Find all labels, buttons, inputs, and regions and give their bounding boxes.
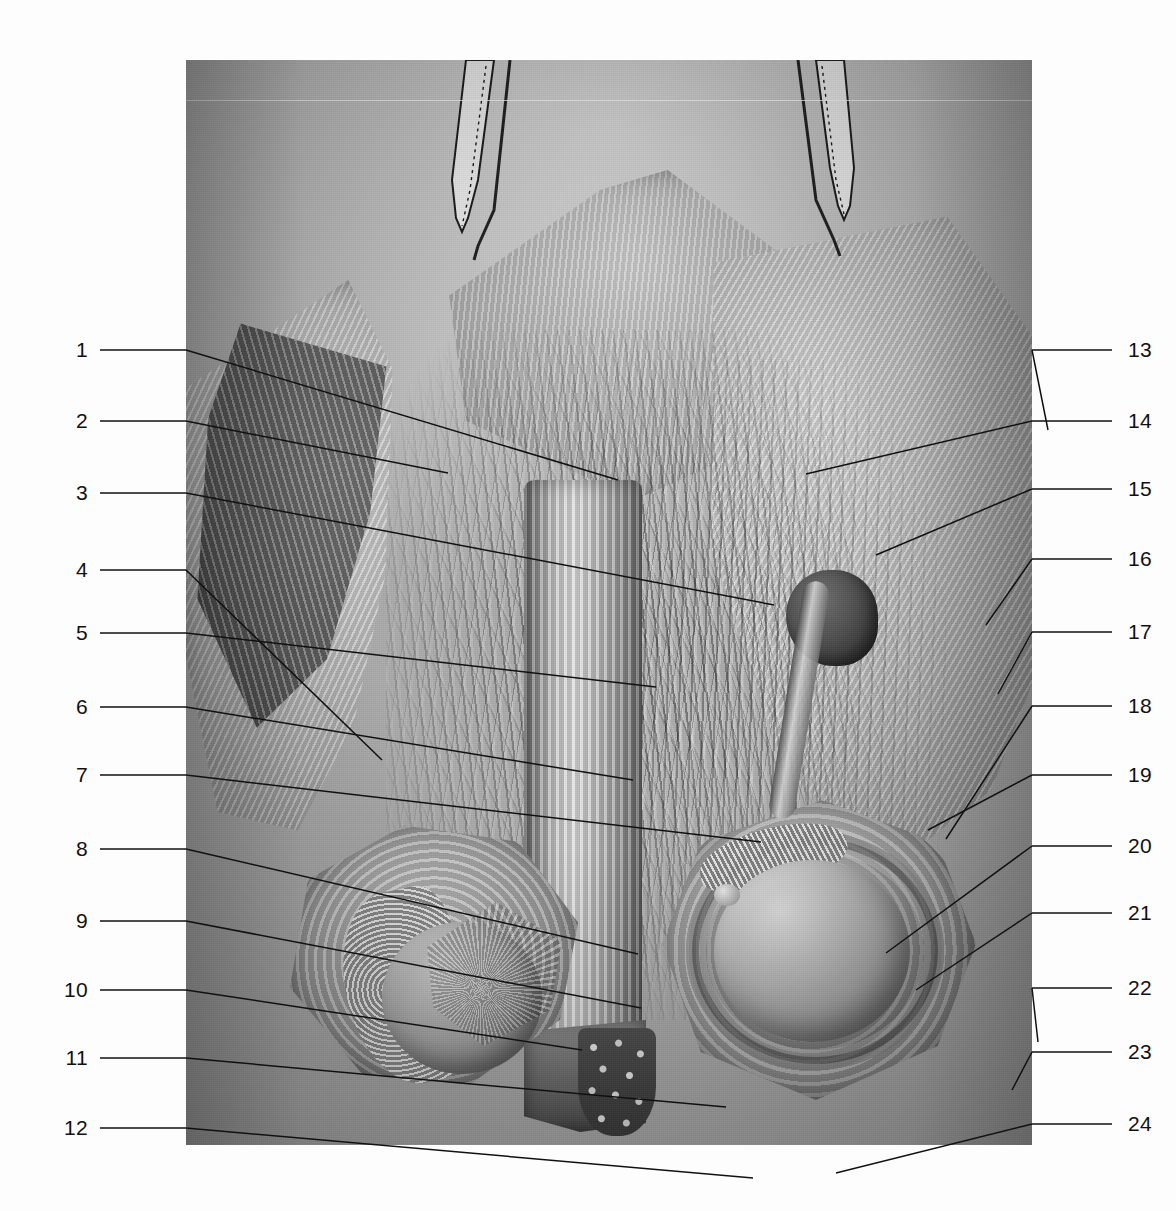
figure-label-24: 24 bbox=[1128, 1113, 1172, 1134]
figure-label-21: 21 bbox=[1128, 902, 1172, 923]
figure-label-17: 17 bbox=[1128, 621, 1172, 642]
figure-label-9: 9 bbox=[48, 910, 88, 931]
figure-label-15: 15 bbox=[1128, 478, 1172, 499]
figure-label-2: 2 bbox=[48, 410, 88, 431]
figure-label-5: 5 bbox=[48, 622, 88, 643]
leader-line-inner-13 bbox=[1032, 350, 1048, 430]
figure-label-11: 11 bbox=[48, 1047, 88, 1068]
figure-label-4: 4 bbox=[48, 559, 88, 580]
figure-label-19: 19 bbox=[1128, 764, 1172, 785]
figure-label-1: 1 bbox=[48, 339, 88, 360]
figure-label-12: 12 bbox=[48, 1117, 88, 1138]
figure-label-22: 22 bbox=[1128, 977, 1172, 998]
figure-label-16: 16 bbox=[1128, 548, 1172, 569]
figure-label-13: 13 bbox=[1128, 339, 1172, 360]
figure-label-8: 8 bbox=[48, 838, 88, 859]
plate-vignette bbox=[186, 60, 1032, 1145]
figure-label-7: 7 bbox=[48, 764, 88, 785]
figure-label-10: 10 bbox=[48, 979, 88, 1000]
figure-label-14: 14 bbox=[1128, 410, 1172, 431]
figure-label-3: 3 bbox=[48, 482, 88, 503]
figure-page: 123456789101112 131415161718192021222324 bbox=[0, 0, 1176, 1211]
figure-label-6: 6 bbox=[48, 696, 88, 717]
figure-label-23: 23 bbox=[1128, 1041, 1172, 1062]
figure-label-20: 20 bbox=[1128, 835, 1172, 856]
anatomical-figure bbox=[186, 60, 1032, 1145]
figure-label-18: 18 bbox=[1128, 695, 1172, 716]
leader-line-inner-22 bbox=[1032, 988, 1038, 1042]
